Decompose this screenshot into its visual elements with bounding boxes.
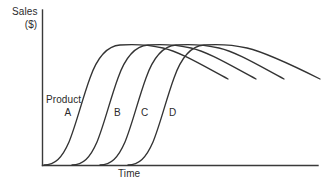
y-axis-label-unit: ($) <box>12 19 50 31</box>
curves-group <box>44 45 320 165</box>
curve-label-a: A <box>46 107 90 119</box>
curve-label-c: C <box>141 107 148 119</box>
product-lifecycle-chart: Sales ($) Time Product A B C D <box>0 0 330 184</box>
curve-label-product-word: Product <box>46 94 81 106</box>
curve-product-c <box>100 45 284 165</box>
y-axis-label-sales: Sales <box>12 6 50 18</box>
x-axis-label-time: Time <box>118 168 140 180</box>
curve-label-d: D <box>169 107 176 119</box>
curve-label-b: B <box>114 107 121 119</box>
curve-product-d <box>128 45 320 165</box>
curve-product-b <box>72 45 256 165</box>
axes-group <box>43 10 319 166</box>
